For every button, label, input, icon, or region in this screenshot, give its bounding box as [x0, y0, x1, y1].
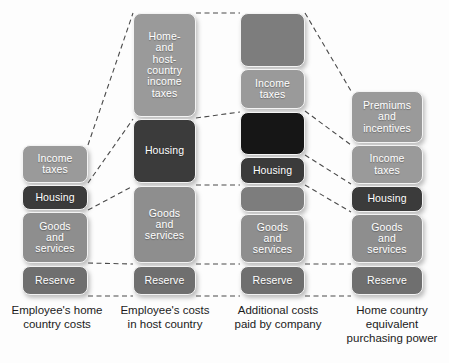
cost-box-additional-costs-paid-by-company-income-taxes-1: Income taxes	[240, 69, 305, 109]
cost-box-additional-costs-paid-by-company-unlabeled-4	[240, 186, 305, 212]
cost-box-home-country-equivalent-purchasing-power-income-taxes-1: Income taxes	[351, 145, 423, 184]
cost-box-home-country-equivalent-purchasing-power-goods-and-services-3: Goods and services	[351, 214, 423, 263]
cost-box-additional-costs-paid-by-company-unlabeled-2	[240, 112, 305, 155]
connector-line-col1-goods-bottom	[88, 263, 133, 264]
connector-line-col1-income-taxes-top	[88, 13, 133, 145]
cost-box-additional-costs-paid-by-company-housing-3: Housing	[240, 157, 305, 184]
cost-box-employee-costs-in-host-country-goods-and-services-2: Goods and services	[133, 186, 196, 263]
column-caption-additional-costs-paid-by-company: Additional costs paid by company	[226, 303, 330, 331]
cost-box-label: Reserve	[33, 275, 77, 286]
column-caption-employee-costs-in-host-country: Employee's costs in host country	[112, 303, 218, 331]
cost-box-label: Goods and services	[143, 208, 186, 242]
cost-box-employee-home-country-costs-goods-and-services-2: Goods and services	[22, 212, 88, 263]
cost-box-additional-costs-paid-by-company-reserve-6: Reserve	[240, 266, 305, 295]
connector-line-col2-taxes-bottom-to-col3	[196, 112, 240, 118]
cost-box-employee-costs-in-host-country-reserve-3: Reserve	[133, 266, 196, 295]
connector-line-col1-income-taxes-bottom	[88, 119, 133, 183]
connector-line-col3-black-to-col4-taxes-bot	[305, 155, 351, 184]
cost-box-label: Reserve	[143, 275, 187, 286]
cost-box-label: Housing	[33, 192, 76, 203]
cost-box-label: Home- and host- country income taxes	[145, 31, 184, 99]
cost-box-label: Premiums and incentives	[361, 100, 413, 134]
cost-box-label: Goods and services	[365, 222, 408, 256]
cost-box-additional-costs-paid-by-company-goods-and-services-5: Goods and services	[240, 214, 305, 263]
cost-box-employee-costs-in-host-country-home-and-host-country-income-taxes-0: Home- and host- country income taxes	[133, 13, 196, 117]
cost-box-label: Income taxes	[253, 78, 292, 101]
cost-box-label: Income taxes	[367, 153, 406, 176]
cost-box-label: Reserve	[365, 275, 409, 286]
cost-box-home-country-equivalent-purchasing-power-reserve-4: Reserve	[351, 266, 423, 295]
cost-box-employee-home-country-costs-income-taxes-0: Income taxes	[22, 145, 88, 183]
cost-box-employee-home-country-costs-reserve-3: Reserve	[22, 266, 88, 295]
cost-box-label: Goods and services	[251, 222, 294, 256]
cost-box-label: Housing	[365, 193, 408, 204]
cost-box-employee-home-country-costs-housing-1: Housing	[22, 185, 88, 210]
cost-box-label: Housing	[143, 145, 186, 156]
cost-box-employee-costs-in-host-country-housing-1: Housing	[133, 119, 196, 183]
connector-line-col3-housing-to-col4-housing	[305, 185, 351, 212]
connector-line-col1-housing-bottom	[88, 186, 133, 210]
column-caption-employee-home-country-costs: Employee's home country costs	[5, 303, 109, 331]
column-caption-home-country-equivalent-purchasing-power: Home country equivalent purchasing power	[338, 303, 446, 345]
cost-box-label: Goods and services	[33, 221, 76, 255]
cost-box-home-country-equivalent-purchasing-power-housing-2: Housing	[351, 186, 423, 212]
cost-box-label: Income taxes	[35, 153, 74, 176]
connector-line-col3-taxes-to-col4-taxes	[305, 111, 351, 145]
cost-box-label: Reserve	[251, 275, 295, 286]
balance-sheet-diagram: Income taxesHousingGoods and servicesRes…	[0, 0, 449, 363]
cost-box-additional-costs-paid-by-company-unlabeled-0	[240, 13, 305, 67]
cost-box-home-country-equivalent-purchasing-power-premiums-and-incentives-0: Premiums and incentives	[351, 91, 423, 143]
connector-line-col3-top-to-col4-top	[305, 13, 351, 91]
cost-box-label: Housing	[251, 165, 294, 176]
